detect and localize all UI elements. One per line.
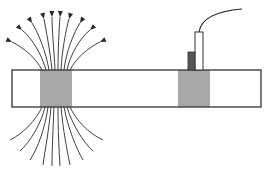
probe-body xyxy=(195,32,203,70)
field-line xyxy=(44,19,52,70)
arrowhead-icon xyxy=(67,13,73,20)
field-line xyxy=(52,17,55,70)
probe-sensor-element xyxy=(188,52,195,70)
arrowhead-icon xyxy=(49,11,54,17)
field-line xyxy=(70,107,103,140)
left-pole-region xyxy=(40,70,72,107)
field-line xyxy=(58,17,60,70)
right-pole-region xyxy=(178,70,210,107)
arrowhead-icon xyxy=(40,13,46,20)
probe-cable xyxy=(199,9,242,32)
field-line xyxy=(12,42,42,70)
arrowhead-icon xyxy=(78,17,85,25)
arrowhead-icon xyxy=(6,37,14,44)
field-line xyxy=(70,42,100,70)
field-lines-bottom xyxy=(10,107,103,166)
field-line xyxy=(58,107,60,166)
field-line xyxy=(20,107,45,151)
probe xyxy=(188,9,242,70)
field-line xyxy=(52,107,54,166)
diagram-canvas xyxy=(0,0,271,170)
magnetic-field-diagram xyxy=(0,0,271,170)
field-line xyxy=(64,107,83,160)
field-lines-top xyxy=(12,17,100,70)
field-arrowheads xyxy=(6,11,107,44)
field-line xyxy=(67,107,93,151)
arrowhead-icon xyxy=(58,11,63,17)
field-line xyxy=(10,107,42,140)
arrowhead-icon xyxy=(99,37,107,44)
arrowhead-icon xyxy=(27,17,34,25)
